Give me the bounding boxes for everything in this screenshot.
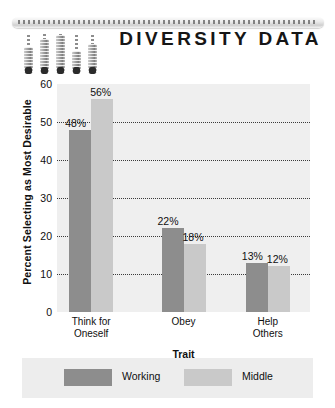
bar-chart-figure: Percent Selecting as Most Desirable 48%5… bbox=[0, 78, 335, 408]
thermometer-bulb bbox=[73, 67, 80, 74]
y-axis-tick-label: 50 bbox=[40, 116, 52, 128]
bar-value-label: 22% bbox=[158, 215, 179, 227]
bar-middle[interactable] bbox=[268, 266, 290, 312]
legend-swatch bbox=[64, 369, 112, 386]
y-axis-tick-label: 20 bbox=[40, 230, 52, 242]
thermometer-stem bbox=[75, 35, 78, 51]
x-axis-tick-label: Think forOneself bbox=[46, 316, 136, 339]
thermometer-icon bbox=[88, 44, 97, 73]
thermometer-stem bbox=[59, 34, 62, 35]
page-header: DIVERSITY DATA bbox=[0, 0, 335, 78]
thermometer-icon bbox=[72, 51, 81, 73]
thermometer-icon bbox=[24, 47, 33, 73]
bar-series-container: 48%56%22%18%13%12% bbox=[57, 84, 310, 312]
bar-value-label: 12% bbox=[267, 253, 288, 265]
x-axis-tick-label: HelpOthers bbox=[223, 316, 313, 339]
bar-value-label: 13% bbox=[242, 250, 263, 262]
y-axis-tick-label: 40 bbox=[40, 154, 52, 166]
bar-middle[interactable] bbox=[91, 99, 113, 312]
bar-value-label: 18% bbox=[183, 231, 204, 243]
thermometer-stem bbox=[27, 35, 30, 47]
legend-swatch bbox=[184, 369, 232, 386]
y-axis-title: Percent Selecting as Most Desirable bbox=[21, 77, 33, 307]
page-title: DIVERSITY DATA bbox=[119, 28, 322, 50]
bar-value-label: 56% bbox=[90, 86, 111, 98]
thermometer-icon bbox=[56, 35, 65, 73]
thermometer-bulb bbox=[57, 67, 64, 74]
ruler-ticks bbox=[18, 20, 318, 24]
bar-working[interactable] bbox=[162, 228, 184, 312]
legend-label: Working bbox=[122, 370, 160, 382]
ruler-bar-graphic bbox=[12, 17, 324, 28]
legend-label: Middle bbox=[242, 370, 273, 382]
plot-area-wrapper: 48%56%22%18%13%12% 0102030405060 Think f… bbox=[57, 84, 310, 312]
chart-legend: WorkingMiddle bbox=[22, 358, 313, 398]
x-axis-tick-line: Think for bbox=[46, 316, 136, 328]
y-axis-tick-label: 30 bbox=[40, 192, 52, 204]
thermometer-stem bbox=[91, 35, 94, 44]
bar-working[interactable] bbox=[69, 130, 91, 312]
x-axis-tick-label: Obey bbox=[139, 316, 229, 328]
y-axis-tick-label: 10 bbox=[40, 268, 52, 280]
bar-group: 13%12% bbox=[246, 84, 290, 312]
bar-group: 48%56% bbox=[69, 84, 113, 312]
thermometer-icon bbox=[40, 39, 49, 73]
thermometer-bulb bbox=[89, 67, 96, 74]
thermometer-stem bbox=[43, 34, 46, 39]
bar-value-label: 48% bbox=[65, 117, 86, 129]
thermometer-bulb bbox=[41, 67, 48, 74]
bar-middle[interactable] bbox=[184, 244, 206, 312]
x-axis-tick-line: Obey bbox=[139, 316, 229, 328]
thermometer-group-graphic bbox=[24, 28, 100, 73]
y-axis-tick-label: 60 bbox=[40, 78, 52, 90]
x-axis-tick-line: Oneself bbox=[46, 328, 136, 340]
bar-group: 22%18% bbox=[162, 84, 206, 312]
plot-area: 48%56%22%18%13%12% bbox=[57, 84, 310, 312]
bar-working[interactable] bbox=[246, 263, 268, 312]
x-axis-tick-line: Help bbox=[223, 316, 313, 328]
x-axis-tick-line: Others bbox=[223, 328, 313, 340]
thermometer-bulb bbox=[25, 67, 32, 74]
